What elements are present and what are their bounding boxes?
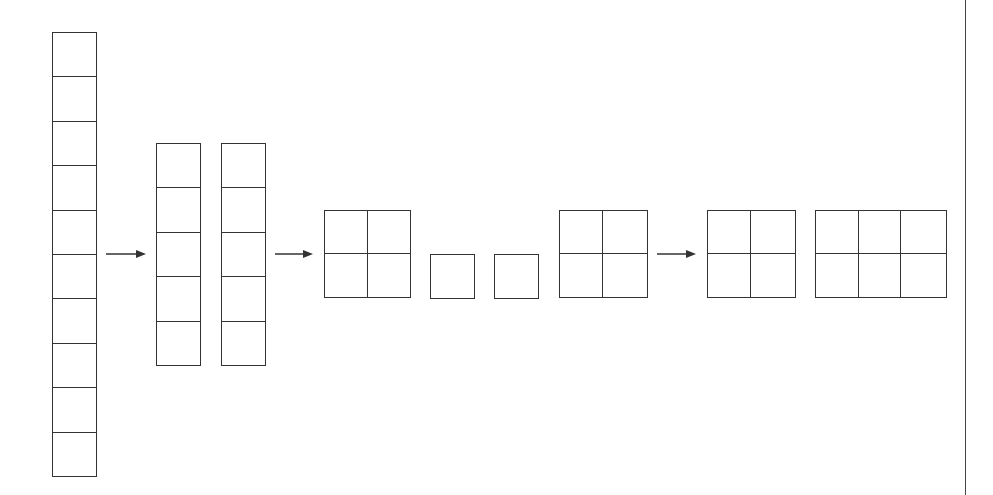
square-b <box>494 254 539 299</box>
cell <box>602 253 649 299</box>
cell <box>156 232 201 278</box>
cell <box>156 276 201 322</box>
cell <box>221 187 266 233</box>
cell <box>602 210 649 254</box>
cell <box>52 210 97 256</box>
cell <box>559 253 603 299</box>
arrow-right-icon <box>275 248 317 260</box>
cell <box>750 210 797 254</box>
cell <box>156 143 201 189</box>
grid-2x3 <box>815 210 947 298</box>
cell <box>367 253 412 299</box>
cell <box>750 253 797 299</box>
cell <box>707 210 751 254</box>
cell <box>156 321 201 367</box>
cell <box>52 165 97 211</box>
cell <box>900 210 947 254</box>
cell <box>430 254 475 299</box>
cell <box>494 254 539 299</box>
cell <box>52 76 97 122</box>
cell <box>221 232 266 278</box>
cell <box>52 254 97 300</box>
vertical-divider <box>965 0 966 495</box>
cell <box>52 121 97 167</box>
cell <box>52 432 97 478</box>
arrow-right-icon <box>106 248 148 260</box>
cell <box>815 210 859 254</box>
cell <box>52 387 97 433</box>
cell <box>324 210 368 254</box>
cell <box>221 321 266 367</box>
cell <box>221 276 266 322</box>
cell <box>858 253 904 299</box>
cell <box>815 253 859 299</box>
square-a <box>430 254 475 299</box>
column-10-cells <box>52 32 97 477</box>
column-5-cells-a <box>156 143 201 366</box>
cell <box>52 343 97 389</box>
cell <box>156 187 201 233</box>
grid-2x2-c <box>707 210 796 298</box>
column-5-cells-b <box>221 143 266 366</box>
cell <box>559 210 603 254</box>
arrow-right-icon <box>657 248 699 260</box>
grid-2x2-b <box>559 210 648 298</box>
cell <box>367 210 412 254</box>
cell <box>900 253 947 299</box>
cell <box>221 143 266 189</box>
cell <box>707 253 751 299</box>
cell <box>52 32 97 78</box>
cell <box>858 210 904 254</box>
grid-2x2-a <box>324 210 411 298</box>
cell <box>324 253 368 299</box>
cell <box>52 298 97 344</box>
